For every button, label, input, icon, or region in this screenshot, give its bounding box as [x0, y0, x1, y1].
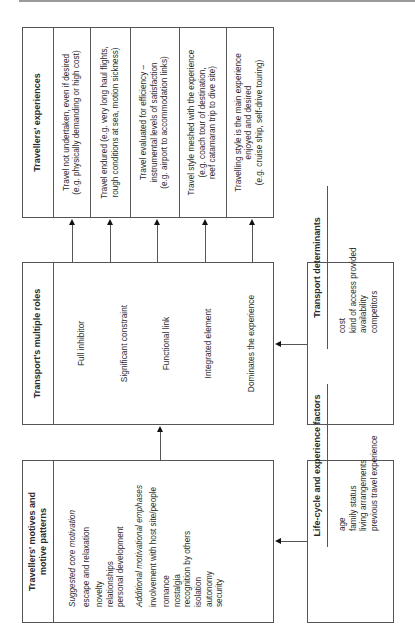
motives-title: Travellers' motives andmotive patterns	[22, 460, 54, 623]
travellers-motives-box: Travellers' motives andmotive patterns S…	[22, 460, 274, 623]
lifecycle-title: Life-cycle and experience factors	[307, 384, 328, 547]
core-item: personal development	[116, 460, 127, 607]
lifecycle-item: age	[338, 384, 349, 531]
additional-item: security	[215, 460, 226, 607]
experience-row-main: Travelling style is the main experiencee…	[227, 27, 272, 218]
determinant-item: competitors	[370, 186, 381, 333]
motives-list: Suggested core motivation escape and rel…	[54, 460, 274, 623]
determinants-list: cost kind of access provided availabilit…	[328, 186, 394, 349]
role-integrated-element: Integrated element	[187, 262, 229, 425]
arrow-left-icon	[275, 341, 281, 347]
determinant-item: kind of access provided	[349, 186, 360, 333]
determinants-title: Transport determinants	[307, 186, 328, 349]
additional-item: autonomy	[205, 460, 216, 607]
lifecycle-item: living arrangements	[359, 384, 370, 531]
arrow-up-icon	[107, 219, 113, 225]
additional-item: nostalgia	[173, 460, 184, 607]
arrow-up-icon	[249, 219, 255, 225]
experience-text: Travel style meshed with the experience	[187, 50, 198, 196]
experience-text: reef catamaran trip to dive site)	[208, 50, 219, 196]
additional-item: involvement with host site/people	[149, 460, 160, 607]
experience-text: Travel evaluated for efficiency –	[139, 56, 150, 188]
experience-text: instrumental levels of satisfaction	[150, 56, 161, 188]
lifecycle-factors-box: Life-cycle and experience factors age fa…	[307, 460, 394, 623]
connector-line	[160, 431, 161, 460]
experience-text: (e.g. coach tour of destination,	[198, 50, 209, 196]
connector-line	[252, 224, 253, 262]
lifecycle-item: previous travel experience	[370, 384, 381, 531]
experience-row-not-undertaken: Travel not undertaken, even if desired(e…	[54, 27, 91, 218]
role-dominates-experience: Dominates the experience	[230, 262, 272, 425]
additional-item: recognition by others	[183, 460, 194, 607]
arrow-up-icon	[157, 426, 163, 432]
transport-roles-box: Transport's multiple roles Full inhibito…	[22, 262, 274, 425]
arrow-up-icon	[69, 219, 75, 225]
role-full-inhibitor: Full inhibitor	[60, 262, 102, 425]
experience-text: enjoyed and desired	[244, 53, 255, 192]
connector-line	[280, 344, 307, 345]
experience-row-endured: Travel endured (e.g. very long haul flig…	[91, 27, 131, 218]
experience-text: Travelling style is the main experience	[234, 53, 245, 192]
connector-line	[110, 224, 111, 262]
core-item: relationships	[106, 460, 117, 607]
lifecycle-list: age family status living arrangements pr…	[328, 384, 394, 547]
motives-title-line: motive patterns	[38, 492, 49, 591]
travellers-experiences-box: Travellers' experiences Travel not under…	[22, 27, 274, 218]
experience-row-meshed: Travel style meshed with the experience(…	[180, 27, 227, 218]
additional-item: romance	[162, 460, 173, 607]
experience-text: rough conditions at sea, motion sickness…	[111, 46, 122, 199]
page-top-rule	[19, 0, 415, 2]
experiences-title: Travellers' experiences	[22, 27, 54, 218]
additional-emphases-heading: Additional motivational emphases	[135, 460, 146, 607]
experience-text: Travel not undertaken, even if desired	[62, 50, 73, 194]
additional-item: isolation	[194, 460, 205, 607]
lifecycle-item: family status	[349, 384, 360, 531]
arrow-up-icon	[154, 219, 160, 225]
connector-line	[280, 541, 307, 542]
experience-text: (e.g. airport to accommodation links)	[160, 56, 171, 188]
connector-line	[205, 224, 206, 262]
roles-title: Transport's multiple roles	[22, 262, 54, 425]
motives-title-line: Travellers' motives and	[27, 492, 38, 591]
arrow-up-icon	[202, 219, 208, 225]
role-functional-link: Functional link	[145, 262, 187, 425]
arrow-left-icon	[275, 538, 281, 544]
experience-text: Travel endured (e.g. very long haul flig…	[100, 46, 111, 199]
core-motivation-heading: Suggested core motivation	[68, 460, 79, 607]
connector-line	[72, 224, 73, 262]
connector-line	[157, 224, 158, 262]
role-significant-constraint: Significant constraint	[102, 262, 144, 425]
determinant-item: availability	[359, 186, 370, 333]
core-item: escape and relaxation	[82, 460, 93, 607]
experience-row-efficiency: Travel evaluated for efficiency –instrum…	[131, 27, 180, 218]
experience-text: (e.g. physically demanding or high cost)	[72, 50, 83, 194]
determinant-item: cost	[338, 186, 349, 333]
core-item: novelty	[95, 460, 106, 607]
experience-text: (e.g. cruise ship, self-drive touring)	[255, 53, 266, 192]
